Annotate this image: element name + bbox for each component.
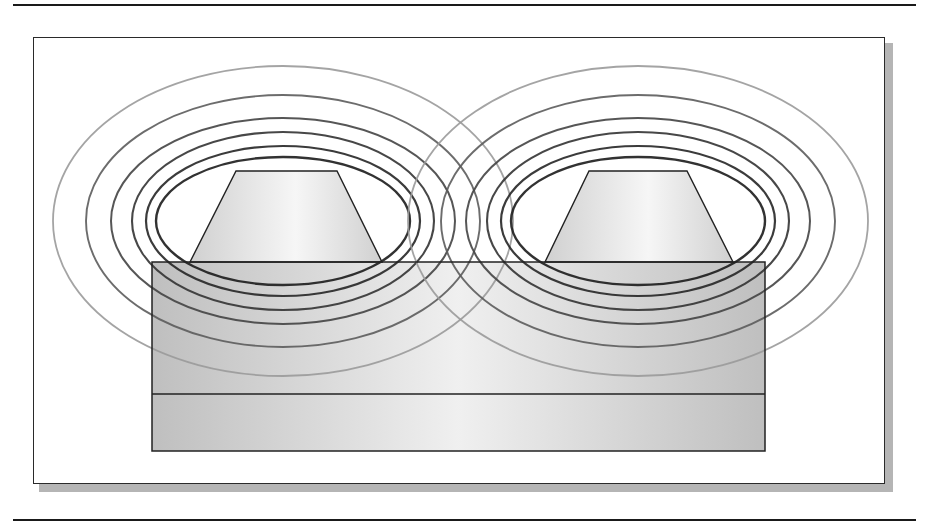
bottom-rule xyxy=(13,519,916,521)
slab-body xyxy=(152,262,765,451)
conductors xyxy=(190,171,733,262)
right-conductor xyxy=(545,171,733,262)
left-conductor xyxy=(190,171,382,262)
field-diagram xyxy=(0,0,929,524)
dielectric-slab xyxy=(152,262,765,451)
